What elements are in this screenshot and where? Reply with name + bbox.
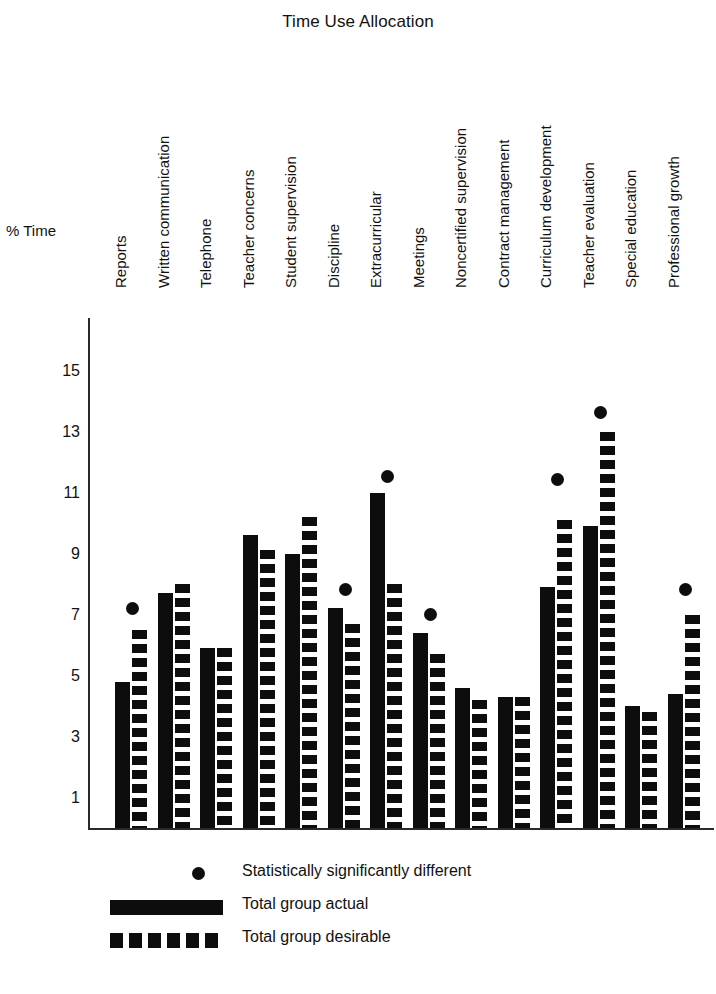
bar-desirable xyxy=(557,520,572,828)
significance-dot-icon xyxy=(126,602,139,615)
bar-desirable xyxy=(132,630,147,828)
bar-actual xyxy=(583,526,598,828)
y-axis-tick-7: 7 xyxy=(36,606,80,624)
bar-actual xyxy=(243,535,258,828)
y-axis-tick-15: 15 xyxy=(36,362,80,380)
bar-group xyxy=(455,827,489,828)
legend-key xyxy=(110,928,228,954)
bar-group xyxy=(498,827,532,828)
bar-group xyxy=(285,827,319,828)
bar-group xyxy=(583,827,617,828)
bar-desirable xyxy=(217,648,232,828)
significance-dot-icon xyxy=(339,583,352,596)
bar-group xyxy=(413,827,447,828)
legend-label: Total group actual xyxy=(242,895,368,913)
legend-dashed-bar-icon xyxy=(110,933,223,948)
significance-dot-icon xyxy=(424,608,437,621)
bar-group xyxy=(200,827,234,828)
y-axis-tick-13: 13 xyxy=(36,423,80,441)
significance-dot-icon xyxy=(551,473,564,486)
bar-group xyxy=(540,827,574,828)
bar-actual xyxy=(540,587,555,828)
bar-desirable xyxy=(430,654,445,828)
legend-item: Total group actual xyxy=(110,895,710,928)
chart-legend: Statistically significantly differentTot… xyxy=(110,862,710,961)
y-axis-tick-3: 3 xyxy=(36,728,80,746)
bar-desirable xyxy=(345,624,360,828)
bar-actual xyxy=(158,593,173,828)
bar-desirable xyxy=(515,697,530,828)
legend-item: Total group desirable xyxy=(110,928,710,961)
legend-dot-icon xyxy=(192,867,205,880)
legend-item: Statistically significantly different xyxy=(110,862,710,895)
y-axis-tick-11: 11 xyxy=(36,484,80,502)
bar-desirable xyxy=(685,615,700,829)
plot-area: 15131197531 xyxy=(0,0,716,850)
bar-group xyxy=(243,827,277,828)
bar-actual xyxy=(668,694,683,828)
bar-actual xyxy=(328,608,343,828)
x-axis-line xyxy=(88,828,714,830)
bar-desirable xyxy=(260,550,275,828)
legend-label: Total group desirable xyxy=(242,928,391,946)
bar-actual xyxy=(625,706,640,828)
bar-desirable xyxy=(302,517,317,828)
significance-dot-icon xyxy=(594,406,607,419)
bar-group xyxy=(668,827,702,828)
bar-actual xyxy=(285,554,300,829)
legend-label: Statistically significantly different xyxy=(242,862,471,880)
bar-desirable xyxy=(175,584,190,828)
bar-actual xyxy=(413,633,428,828)
bar-desirable xyxy=(387,584,402,828)
y-axis-tick-9: 9 xyxy=(36,545,80,563)
bar-actual xyxy=(498,697,513,828)
bar-actual xyxy=(115,682,130,828)
legend-solid-bar-icon xyxy=(110,900,223,915)
bar-actual xyxy=(370,493,385,829)
y-axis-line xyxy=(88,318,90,830)
y-axis-tick-1: 1 xyxy=(36,789,80,807)
bar-group xyxy=(115,827,149,828)
significance-dot-icon xyxy=(381,470,394,483)
legend-key xyxy=(110,895,228,921)
bar-group xyxy=(158,827,192,828)
bar-desirable xyxy=(600,432,615,829)
bar-group xyxy=(625,827,659,828)
bar-actual xyxy=(200,648,215,828)
y-axis-tick-5: 5 xyxy=(36,667,80,685)
bar-group xyxy=(370,827,404,828)
bar-actual xyxy=(455,688,470,828)
bar-group xyxy=(328,827,362,828)
legend-key xyxy=(110,862,228,888)
significance-dot-icon xyxy=(679,583,692,596)
bar-desirable xyxy=(472,700,487,828)
bar-desirable xyxy=(642,712,657,828)
